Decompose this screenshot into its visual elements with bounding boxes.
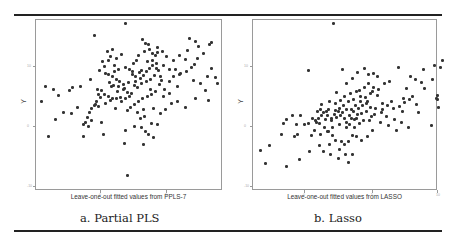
data-point	[143, 50, 146, 53]
data-point	[140, 82, 143, 85]
data-point	[372, 72, 375, 75]
data-point	[338, 107, 341, 110]
data-point	[439, 66, 442, 69]
data-point	[133, 103, 136, 106]
data-point	[149, 88, 152, 91]
data-point	[150, 93, 153, 96]
data-point	[401, 110, 404, 113]
data-point	[62, 111, 65, 114]
data-point	[142, 143, 145, 146]
data-point	[159, 112, 162, 115]
plot-frame-b: 0510100-10	[252, 19, 437, 190]
data-point	[82, 123, 85, 126]
data-point	[101, 60, 104, 63]
data-point	[214, 76, 217, 79]
y-tick	[250, 186, 253, 187]
data-point	[344, 153, 347, 156]
data-point	[393, 118, 396, 121]
data-point	[184, 106, 187, 109]
data-point	[313, 129, 316, 132]
data-point	[368, 119, 371, 122]
data-point	[310, 134, 313, 137]
data-point	[298, 158, 301, 161]
data-point	[363, 86, 366, 89]
data-point	[334, 139, 337, 142]
data-point	[347, 100, 350, 103]
data-point	[386, 104, 389, 107]
y-tick	[33, 126, 36, 127]
data-point	[317, 117, 320, 120]
data-point	[430, 124, 433, 127]
data-point	[291, 114, 294, 117]
data-point	[369, 106, 372, 109]
data-point	[331, 134, 334, 137]
data-point	[318, 122, 321, 125]
data-point	[124, 97, 127, 100]
data-point	[155, 62, 158, 65]
y-tick-label: 10	[27, 64, 31, 68]
data-point	[350, 108, 353, 111]
data-point	[379, 121, 382, 124]
x-axis-label-b: Leave-one-out fitted values from LASSO	[252, 193, 437, 200]
data-point	[90, 119, 93, 122]
data-point	[362, 119, 365, 122]
data-point	[122, 83, 125, 86]
data-point	[282, 122, 285, 125]
data-point	[126, 109, 129, 112]
data-point	[356, 113, 359, 116]
data-point	[398, 105, 401, 108]
data-point	[113, 70, 116, 73]
data-point	[361, 104, 364, 107]
data-point	[343, 117, 346, 120]
data-point	[329, 153, 332, 156]
data-point	[436, 94, 439, 97]
data-point	[163, 88, 166, 91]
data-point	[400, 121, 403, 124]
data-point	[129, 106, 132, 109]
data-point	[107, 95, 110, 98]
data-point	[150, 122, 153, 125]
data-point	[136, 86, 139, 89]
data-point	[307, 69, 310, 72]
data-point	[285, 118, 288, 121]
plot-frame-a: 05100-10	[35, 19, 222, 190]
data-point	[52, 88, 55, 91]
data-point	[98, 69, 101, 72]
data-point	[320, 103, 323, 106]
data-point	[415, 103, 418, 106]
data-point	[340, 140, 343, 143]
data-point	[299, 114, 302, 117]
data-point	[320, 114, 323, 117]
data-point	[405, 87, 408, 90]
data-point	[112, 84, 115, 87]
data-point	[402, 97, 405, 100]
data-point	[376, 75, 379, 78]
data-point	[359, 95, 362, 98]
data-point	[280, 133, 283, 136]
data-point	[97, 105, 100, 108]
data-point	[111, 48, 114, 51]
data-point	[337, 110, 340, 113]
data-point	[318, 144, 321, 147]
y-tick-label: 0	[244, 124, 246, 128]
data-point	[328, 100, 331, 103]
data-point	[146, 60, 149, 63]
data-point	[162, 95, 165, 98]
data-point	[124, 129, 127, 132]
data-point	[126, 91, 129, 94]
data-point	[417, 111, 420, 114]
data-point	[372, 86, 375, 89]
data-point	[151, 59, 154, 62]
data-point	[319, 133, 322, 136]
data-point	[338, 123, 341, 126]
data-point	[114, 107, 117, 110]
data-point	[126, 174, 129, 177]
data-point	[358, 122, 361, 125]
data-point	[328, 143, 331, 146]
data-point	[337, 157, 340, 160]
data-point	[120, 53, 123, 56]
data-point	[333, 113, 336, 116]
data-point	[142, 74, 145, 77]
data-point	[381, 102, 384, 105]
data-point	[124, 66, 127, 69]
